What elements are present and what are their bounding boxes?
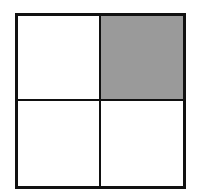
cell-top-right-shaded <box>101 16 184 101</box>
cell-bottom-right <box>101 101 184 186</box>
cell-bottom-left <box>18 101 101 186</box>
square-grid <box>15 13 186 189</box>
cell-top-left <box>18 16 101 101</box>
